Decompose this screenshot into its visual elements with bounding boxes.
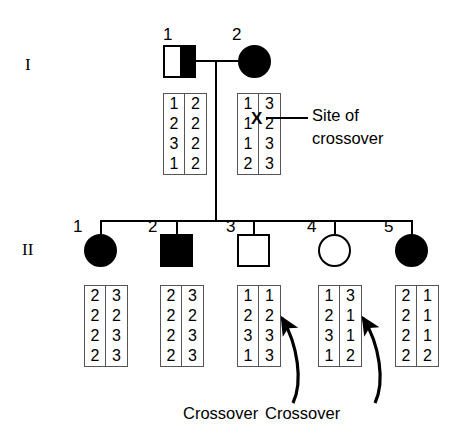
allele-cell: 2 <box>112 306 121 326</box>
allele-cell: 1 <box>423 286 432 306</box>
haplotype-column-I-2-paternal: 1 1 1 2 <box>238 94 259 174</box>
site-of-crossover-label-line1: Site of <box>312 105 359 126</box>
allele-cell: 2 <box>265 114 274 134</box>
haplotype-column-II-2-paternal: 2 2 2 2 <box>161 286 182 366</box>
allele-cell: 3 <box>265 154 274 174</box>
haplotype-column-I-1-paternal: 1 2 3 1 <box>164 94 185 174</box>
allele-cell: 2 <box>265 306 274 326</box>
haplotype-box-II-5: 2 2 2 2 1 1 1 2 <box>395 285 439 367</box>
allele-cell: 1 <box>244 286 253 306</box>
allele-cell: 2 <box>402 286 411 306</box>
haplotype-column-II-4-maternal: 3 1 1 2 <box>340 286 361 366</box>
allele-cell: 2 <box>170 114 179 134</box>
individual-symbol-I-1[interactable] <box>163 45 196 78</box>
individual-symbol-II-4[interactable] <box>318 234 351 267</box>
haplotype-column-I-1-maternal: 2 2 2 2 <box>185 94 206 174</box>
allele-cell: 2 <box>402 306 411 326</box>
haplotype-column-II-1-paternal: 2 2 2 2 <box>85 286 106 366</box>
allele-cell: 2 <box>167 306 176 326</box>
allele-cell: 2 <box>346 346 355 366</box>
allele-cell: 1 <box>244 134 253 154</box>
descent-line <box>215 60 217 221</box>
allele-cell: 3 <box>188 286 197 306</box>
haplotype-column-II-5-maternal: 1 1 1 2 <box>417 286 438 366</box>
haplotype-box-II-4: 1 2 3 1 3 1 1 2 <box>318 285 362 367</box>
allele-cell: 3 <box>265 134 274 154</box>
allele-cell: 2 <box>402 326 411 346</box>
allele-cell: 3 <box>265 346 274 366</box>
individual-number-II-5: 5 <box>384 218 393 235</box>
allele-cell: 2 <box>244 306 253 326</box>
allele-cell: 1 <box>423 326 432 346</box>
individual-number-II-2: 2 <box>148 218 157 235</box>
allele-cell: 2 <box>188 306 197 326</box>
generation-label-II: II <box>22 240 33 260</box>
haplotype-box-I-2: 1 1 1 2 3 2 3 3 <box>237 93 281 175</box>
allele-cell: 2 <box>325 306 334 326</box>
allele-cell: 3 <box>265 326 274 346</box>
crossover-arrow-right <box>363 318 380 403</box>
individual-symbol-II-1[interactable] <box>84 234 117 267</box>
allele-cell: 3 <box>265 94 274 114</box>
haplotype-box-II-1: 2 2 2 2 3 2 3 3 <box>84 285 128 367</box>
haplotype-column-I-2-maternal: 3 2 3 3 <box>259 94 280 174</box>
individual-number-II-3: 3 <box>226 218 235 235</box>
sibline-drop-II-4 <box>334 220 336 234</box>
mating-line-I1-I2 <box>196 60 238 62</box>
individual-symbol-II-2[interactable] <box>160 234 193 267</box>
haplotype-column-II-1-maternal: 3 2 3 3 <box>106 286 127 366</box>
allele-cell: 1 <box>346 306 355 326</box>
allele-cell: 1 <box>325 286 334 306</box>
allele-cell: 2 <box>191 114 200 134</box>
allele-cell: 2 <box>191 154 200 174</box>
generation-label-I: I <box>25 55 31 75</box>
allele-cell: 1 <box>346 326 355 346</box>
allele-cell: 2 <box>91 286 100 306</box>
allele-cell: 3 <box>170 134 179 154</box>
allele-cell: 2 <box>167 286 176 306</box>
allele-cell: 1 <box>170 94 179 114</box>
allele-cell: 2 <box>91 326 100 346</box>
allele-cell: 1 <box>265 286 274 306</box>
allele-cell: 2 <box>244 154 253 174</box>
haplotype-column-II-2-maternal: 3 2 3 3 <box>182 286 203 366</box>
individual-number-I-2: 2 <box>232 26 241 43</box>
crossover-label-right: Crossover <box>265 403 340 424</box>
haplotype-column-II-3-paternal: 1 2 3 1 <box>238 286 259 366</box>
individual-symbol-II-5[interactable] <box>395 234 428 267</box>
allele-cell: 2 <box>167 346 176 366</box>
sibship-line <box>100 220 412 222</box>
haplotype-column-II-5-paternal: 2 2 2 2 <box>396 286 417 366</box>
haplotype-box-II-3: 1 2 3 1 1 2 3 3 <box>237 285 281 367</box>
allele-cell: 1 <box>423 306 432 326</box>
allele-cell: 2 <box>191 94 200 114</box>
allele-cell: 1 <box>244 346 253 366</box>
haplotype-column-II-4-paternal: 1 2 3 1 <box>319 286 340 366</box>
pedigree-figure: I II 1 2 1 2 3 1 2 2 2 2 1 1 1 2 <box>0 0 455 440</box>
crossover-label-left: Crossover <box>183 403 258 424</box>
sibline-drop-II-2 <box>176 220 178 234</box>
individual-number-I-1: 1 <box>163 26 172 43</box>
sibline-drop-II-1 <box>100 220 102 234</box>
allele-cell: 3 <box>346 286 355 306</box>
individual-symbol-II-3[interactable] <box>237 234 270 267</box>
allele-cell: 3 <box>188 346 197 366</box>
allele-cell: 3 <box>188 326 197 346</box>
site-of-crossover-label-line2: crossover <box>312 128 384 149</box>
allele-cell: 2 <box>191 134 200 154</box>
allele-cell: 3 <box>112 326 121 346</box>
individual-number-II-1: 1 <box>73 218 82 235</box>
allele-cell: 1 <box>170 154 179 174</box>
allele-cell: 2 <box>402 346 411 366</box>
individual-symbol-I-2[interactable] <box>238 45 271 78</box>
sibline-drop-II-3 <box>253 220 255 234</box>
crossover-arrow-left <box>282 318 298 403</box>
allele-cell: 2 <box>91 306 100 326</box>
crossover-x-marker-I-2: X <box>251 110 262 127</box>
allele-cell: 3 <box>112 286 121 306</box>
allele-cell: 2 <box>423 346 432 366</box>
sibline-drop-II-5 <box>411 220 413 234</box>
allele-cell: 2 <box>91 346 100 366</box>
allele-cell: 3 <box>244 326 253 346</box>
haplotype-box-I-1: 1 2 3 1 2 2 2 2 <box>163 93 207 175</box>
